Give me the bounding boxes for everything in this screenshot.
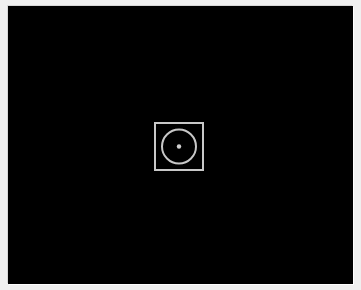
window-frame	[0, 0, 361, 290]
capture-target-icon	[154, 122, 204, 171]
capture-target-button[interactable]	[154, 122, 204, 171]
video-preview-area[interactable]	[8, 6, 353, 284]
